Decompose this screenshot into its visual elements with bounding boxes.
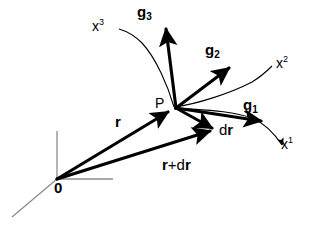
coord-curve-x2-label-sup: 2 [283,54,288,64]
basis-vector-g2-label: g2 [205,42,220,57]
basis-vector-g1-label-base: g [243,96,252,113]
coord-curve-x3 [119,29,174,107]
basis-vector-g2-label-sub: 2 [214,49,220,60]
coord-curve-x1-label-sup: 1 [288,135,293,145]
basis-vector-g2-label-base: g [205,41,214,58]
coord-curve-x3-label: x3 [92,19,104,33]
basis-vector-g1-label: g1 [243,97,258,112]
coord-curve-x1-label: x1 [281,137,293,151]
vector-r-plus-dr-label-plus: + [168,156,177,173]
vector-g2-arrow [176,68,229,108]
vector-r-label: r [115,114,121,129]
curvilinear-coordinates-diagram: 0 P r dr r+dr g1 g2 g3 x1 x2 x3 [0,0,311,226]
basis-vector-g3-label-sub: 3 [146,11,152,22]
vector-r-plus-dr-label-dr: r [185,156,191,173]
vector-r-plus-dr-label-d: d [177,156,185,173]
coord-curve-x3-label-sup: 3 [99,17,104,27]
vector-dr-label: dr [219,122,233,137]
basis-vector-g3-label: g3 [137,4,152,19]
origin-label: 0 [54,180,62,195]
vector-dr-label-r: r [227,121,233,138]
coord-curve-x1-label-base: x [281,136,288,152]
coord-curve-x3-label-base: x [92,18,99,34]
point-p-label: P [155,96,164,110]
basis-vector-g3-label-base: g [137,3,146,20]
vector-r-arrow [57,112,168,179]
basis-vector-g1-label-sub: 1 [252,104,258,115]
axis-diagonal-line [12,179,57,217]
point-p-marker [174,106,178,110]
diagram-canvas [0,0,311,226]
coord-curve-x2-label-base: x [276,55,283,71]
vector-r-plus-dr-label: r+dr [162,157,191,172]
coord-curve-x2-label: x2 [276,56,288,70]
